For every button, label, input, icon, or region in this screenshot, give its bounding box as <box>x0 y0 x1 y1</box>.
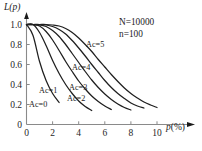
annotation-N-text: N=10000 <box>119 17 154 27</box>
curve-label-ac5: Ac=5 <box>86 41 104 49</box>
curve-label-ac3: Ac=3 <box>69 84 87 92</box>
curve-label-ac1-text: Ac=1 <box>39 86 57 95</box>
curve-label-ac2-text: Ac=2 <box>67 94 85 103</box>
curve-label-ac0: Ac=0 <box>29 101 47 109</box>
curve-label-ac0-text: Ac=0 <box>29 100 47 109</box>
x-tick-label: 8 <box>129 128 134 138</box>
y-axis-label: L(p) <box>4 3 20 13</box>
axes <box>24 12 195 127</box>
x-tick-group: 0246810 <box>24 121 162 137</box>
x-tick-label: 10 <box>152 128 162 138</box>
annotation-n-text: n=100 <box>119 29 143 39</box>
x-tick-label: 6 <box>102 128 107 138</box>
y-tick-label: 0.2 <box>10 100 22 110</box>
y-tick-label: 0.6 <box>10 60 22 70</box>
x-axis-label-unit: (%) <box>171 122 185 132</box>
x-tick-label: 4 <box>76 128 81 138</box>
y-axis-label-text: L(p) <box>4 2 20 12</box>
curve-label-ac2: Ac=2 <box>67 95 85 103</box>
curve-label-ac4: Ac=4 <box>72 64 90 72</box>
y-tick-label: 0.8 <box>10 40 22 50</box>
x-tick-label: 2 <box>50 128 55 138</box>
x-axis-arrow <box>187 122 195 127</box>
y-tick-label: 0 <box>17 120 22 130</box>
annotation-n: n=100 <box>119 30 143 39</box>
y-tick-label: 0.4 <box>10 80 22 90</box>
annotation-N: N=10000 <box>119 18 154 27</box>
oc-curve-figure: 00.20.40.60.81.00246810 L(p) p(%) N=1000… <box>0 0 202 151</box>
x-axis-label: p(%) <box>166 123 185 133</box>
curve-label-ac1: Ac=1 <box>39 87 57 95</box>
curve-label-ac5-text: Ac=5 <box>86 40 104 49</box>
y-tick-label: 1.0 <box>10 20 22 30</box>
curve-label-ac4-text: Ac=4 <box>72 63 90 72</box>
y-axis-arrow <box>24 12 29 19</box>
curve-label-ac3-text: Ac=3 <box>69 83 87 92</box>
x-tick-label: 0 <box>24 128 29 138</box>
